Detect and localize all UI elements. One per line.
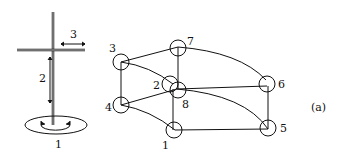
node-label-3: 3 xyxy=(109,43,116,54)
node-label-2: 2 xyxy=(153,80,160,91)
base-rotation-icon xyxy=(25,116,87,134)
label-reach: 3 xyxy=(70,29,77,40)
workspace-edges xyxy=(121,47,268,130)
node-label-8: 8 xyxy=(182,99,189,110)
reach-arrow-icon xyxy=(61,42,85,46)
workspace-nodes xyxy=(113,40,276,138)
node-label-7: 7 xyxy=(187,36,194,47)
diagram-drawing xyxy=(0,0,340,153)
label-rotation: 1 xyxy=(55,139,62,150)
label-vertical: 2 xyxy=(39,73,46,84)
node-label-6: 6 xyxy=(278,79,285,90)
vertical-arrow-icon xyxy=(48,57,52,103)
node-label-1: 1 xyxy=(162,140,169,151)
cylindrical-robot-workspace-diagram: 3 2 1 3 7 2 8 4 1 6 5 (a) xyxy=(0,0,340,153)
node-label-5: 5 xyxy=(280,123,287,134)
figure-caption: (a) xyxy=(311,102,326,113)
node-label-4: 4 xyxy=(105,102,112,113)
